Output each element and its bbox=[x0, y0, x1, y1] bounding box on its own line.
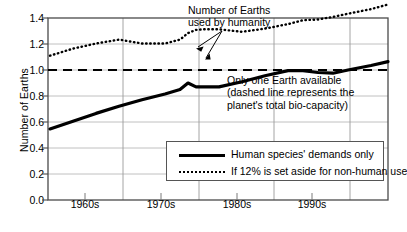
chart-legend: Human species' demands only If 12% is se… bbox=[166, 141, 384, 181]
legend-label: Human species' demands only bbox=[231, 149, 374, 160]
legend-entry-non-human-use: If 12% is set aside for non-human use bbox=[167, 163, 383, 180]
x-tick-label-1980s: 1980s bbox=[207, 198, 267, 210]
legend-label: If 12% is set aside for non-human use bbox=[231, 166, 407, 177]
legend-entry-human-demands: Human species' demands only bbox=[167, 146, 383, 163]
annotation-line: (dashed line represents the bbox=[227, 86, 354, 98]
annotation-only-one-earth: Only one Earth available (dashed line re… bbox=[227, 74, 354, 111]
x-tick-label-1970s: 1970s bbox=[131, 198, 191, 210]
y-axis-ticks bbox=[42, 18, 48, 200]
annotation-line: planet's total bio-capacity) bbox=[227, 99, 354, 111]
annotation-line: used by humanity bbox=[188, 16, 270, 28]
dotted-line-swatch-icon bbox=[179, 167, 225, 177]
annotation-line: Number of Earths bbox=[188, 4, 270, 16]
annotation-number-of-earths: Number of Earths used by humanity bbox=[188, 4, 270, 29]
x-tick-label-1960s: 1960s bbox=[55, 198, 115, 210]
annotation-arrows bbox=[198, 31, 222, 58]
solid-line-swatch-icon bbox=[179, 150, 225, 160]
annotation-line: Only one Earth available bbox=[227, 74, 354, 86]
x-axis-ticks bbox=[85, 193, 312, 200]
x-tick-label-1990s: 1990s bbox=[282, 198, 342, 210]
